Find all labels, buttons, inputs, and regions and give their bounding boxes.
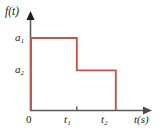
step-function-chart: f(t) a1 a2 0 t1 t2 t(s) — [0, 0, 162, 133]
t1-subscript: 1 — [67, 119, 70, 126]
t2-subscript: 2 — [104, 119, 107, 126]
x-tick-label-t1: t1 — [64, 114, 70, 125]
x-tick-label-t2: t2 — [101, 114, 107, 125]
x-axis-label: t(s) — [134, 114, 149, 125]
origin-label: 0 — [26, 114, 32, 125]
a1-base: a — [15, 31, 21, 43]
y-tick-label-a1: a1 — [15, 32, 24, 43]
y-tick-label-a2: a2 — [15, 64, 24, 75]
y-axis-label: f(t) — [5, 6, 19, 18]
y-axis-arrowhead — [26, 11, 34, 20]
a1-subscript: 1 — [21, 37, 24, 44]
step-function-curve — [31, 38, 116, 110]
a2-subscript: 2 — [21, 69, 24, 76]
a2-base: a — [15, 63, 21, 75]
